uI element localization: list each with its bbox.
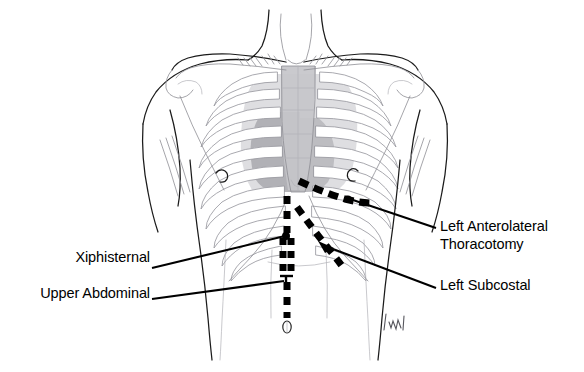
label-upper-abdominal: Upper Abdominal xyxy=(40,285,150,303)
label-upper-abdominal-line1: Upper Abdominal xyxy=(40,285,150,303)
sternocleidomastoid-left xyxy=(306,14,312,60)
arm-left-outer xyxy=(432,124,447,232)
label-thoracotomy-line2: Thoracotomy xyxy=(440,236,548,254)
label-thoracotomy-line1: Left Anterolateral xyxy=(440,218,548,236)
arm-right-outer xyxy=(143,124,158,232)
torso-right-flank xyxy=(190,160,212,360)
surgical-incision-figure: Left Anterolateral Thoracotomy Left Subc… xyxy=(0,0,584,372)
leader-upper-abdominal xyxy=(152,281,284,299)
abdomen-linea-left xyxy=(326,250,327,318)
anatomy-illustration xyxy=(0,0,584,372)
leader-thoracotomy-endpoint xyxy=(344,195,351,202)
label-subcostal-line1: Left Subcostal xyxy=(440,277,531,295)
humeral-head-left xyxy=(388,80,412,94)
label-xiphisternal: Xiphisternal xyxy=(75,249,150,267)
leader-subcostal xyxy=(325,246,436,288)
artist-signature-mark xyxy=(384,314,404,330)
leader-xiphisternal-endpoint xyxy=(282,232,290,240)
neck-left-contour xyxy=(321,10,342,60)
suprasternal-notch xyxy=(288,60,305,64)
flank-crease-right xyxy=(220,240,226,360)
axilla-right xyxy=(170,110,180,206)
rectus-arch xyxy=(268,262,330,266)
label-left-anterolateral-thoracotomy: Left Anterolateral Thoracotomy xyxy=(440,218,548,253)
axilla-left xyxy=(410,110,420,206)
neck-right-contour xyxy=(248,10,269,60)
abdomen-linea-right xyxy=(271,250,272,318)
sternocleidomastoid-right xyxy=(280,14,286,60)
label-xiphisternal-line1: Xiphisternal xyxy=(75,249,150,267)
humeral-head-right xyxy=(178,80,202,94)
serratus-left-hatch xyxy=(400,136,430,196)
serratus-right-hatch xyxy=(160,136,190,196)
label-left-subcostal: Left Subcostal xyxy=(440,277,531,295)
